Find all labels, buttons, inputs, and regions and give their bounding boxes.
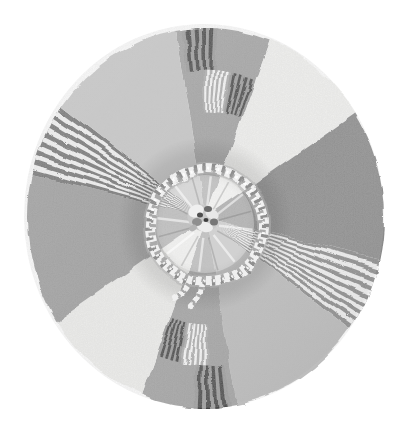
knitted-wheel-mat-photo (0, 0, 405, 428)
knot-blob (204, 206, 212, 212)
knot-blob (210, 219, 218, 226)
photo-canvas (0, 0, 405, 428)
knot-blob (197, 213, 203, 218)
knot-blob (204, 218, 209, 222)
